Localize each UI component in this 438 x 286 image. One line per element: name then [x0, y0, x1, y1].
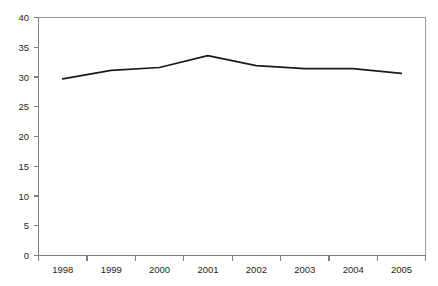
- x-axis-label-2005: 2005: [391, 264, 412, 275]
- y-axis-label-30: 30: [18, 72, 29, 83]
- x-axis-ticks: [39, 256, 426, 262]
- x-axis-label-2003: 2003: [294, 264, 315, 275]
- y-axis-label-5: 5: [24, 220, 29, 231]
- x-axis-labels: 1998 1999 2000 2001 2002 2003 2004 2005: [52, 264, 412, 275]
- y-axis-label-35: 35: [18, 42, 29, 53]
- y-axis-label-10: 10: [18, 191, 29, 202]
- y-axis-label-25: 25: [18, 101, 29, 112]
- x-axis-label-1999: 1999: [101, 264, 122, 275]
- plot-frame: [39, 18, 426, 256]
- x-axis-label-2002: 2002: [246, 264, 267, 275]
- y-axis-label-0: 0: [24, 250, 29, 261]
- x-axis-label-1998: 1998: [52, 264, 73, 275]
- y-axis-label-15: 15: [18, 161, 29, 172]
- chart-canvas: 0 5 10 15 20 25 30 35 40 1998 1999 2000: [0, 0, 438, 286]
- y-axis-labels: 0 5 10 15 20 25 30 35 40: [18, 12, 29, 261]
- x-axis-label-2004: 2004: [343, 264, 364, 275]
- y-axis-ticks: [34, 18, 39, 256]
- x-axis-label-2000: 2000: [149, 264, 170, 275]
- y-axis-label-20: 20: [18, 131, 29, 142]
- data-series-line: [63, 56, 402, 79]
- line-chart: 0 5 10 15 20 25 30 35 40 1998 1999 2000: [0, 0, 438, 286]
- x-axis-label-2001: 2001: [197, 264, 218, 275]
- y-axis-label-40: 40: [18, 12, 29, 23]
